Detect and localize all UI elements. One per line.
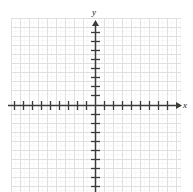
coordinate-plane-figure: x y: [0, 0, 193, 192]
coordinate-grid-svg: [0, 0, 193, 192]
x-axis-label: x: [183, 101, 187, 110]
y-axis-label: y: [92, 8, 96, 17]
